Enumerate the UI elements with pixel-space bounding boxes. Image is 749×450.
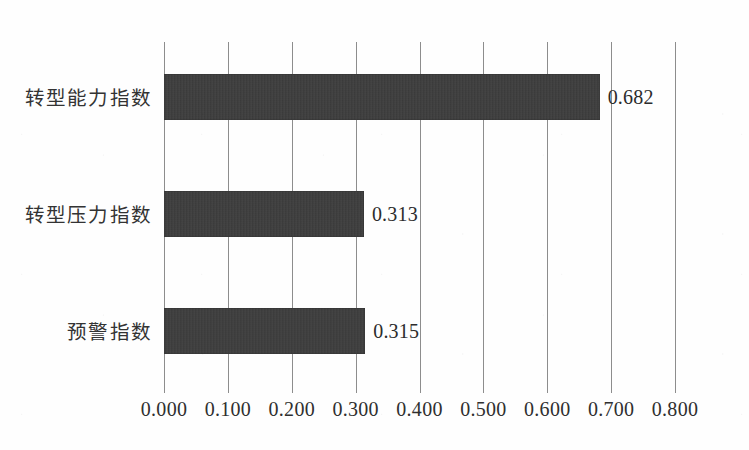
category-label-1: 转型能力指数 <box>25 82 152 111</box>
category-label-2: 转型压力指数 <box>25 199 152 228</box>
x-tick-label-0.000: 0.000 <box>141 398 188 421</box>
x-axis-tick-labels: 0.0000.1000.2000.3000.4000.5000.6000.700… <box>164 398 675 428</box>
bar-row: 0.313 <box>164 191 675 237</box>
category-label-3: 预警指数 <box>67 316 152 345</box>
x-tick-label-0.800: 0.800 <box>652 398 699 421</box>
category-label-wrap: 转型压力指数 <box>0 191 152 237</box>
category-label-wrap: 预警指数 <box>0 308 152 354</box>
x-tick-label-0.500: 0.500 <box>460 398 507 421</box>
plot-area: 0.6820.3130.315 <box>164 42 675 393</box>
x-tick-label-0.100: 0.100 <box>205 398 252 421</box>
x-tick-label-0.600: 0.600 <box>524 398 571 421</box>
gridline-0.800 <box>675 42 676 393</box>
x-tick-label-0.700: 0.700 <box>588 398 635 421</box>
bar-value-label: 0.315 <box>373 319 419 342</box>
bar-value-label: 0.682 <box>608 85 654 108</box>
chart-figure: 0.6820.3130.315 转型能力指数转型压力指数预警指数 0.0000.… <box>0 0 749 450</box>
bar-1[interactable] <box>164 74 600 120</box>
bar-row: 0.682 <box>164 74 675 120</box>
bar-2[interactable] <box>164 191 364 237</box>
x-tick-label-0.200: 0.200 <box>269 398 316 421</box>
bar-3[interactable] <box>164 308 365 354</box>
bar-row: 0.315 <box>164 308 675 354</box>
x-tick-label-0.400: 0.400 <box>396 398 443 421</box>
category-label-wrap: 转型能力指数 <box>0 74 152 120</box>
x-tick-label-0.300: 0.300 <box>332 398 379 421</box>
bar-value-label: 0.313 <box>372 202 418 225</box>
